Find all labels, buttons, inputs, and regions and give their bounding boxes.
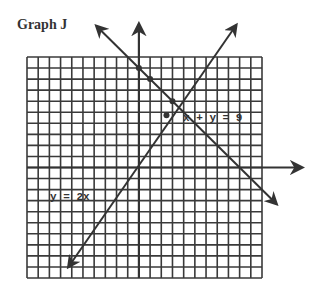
- coordinate-graph: x + y = 9y = 2x: [0, 0, 315, 287]
- point-y-equals-2x: [163, 112, 169, 118]
- point-x-plus-y-equals-9: [169, 98, 175, 104]
- axes: [27, 24, 302, 278]
- points: [136, 65, 176, 118]
- label-y-equals-2x: y = 2x: [50, 191, 90, 203]
- point-x-plus-y-equals-9: [147, 76, 153, 82]
- point-x-plus-y-equals-9: [136, 65, 142, 71]
- label-x-plus-y-equals-9: x + y = 9: [183, 112, 242, 124]
